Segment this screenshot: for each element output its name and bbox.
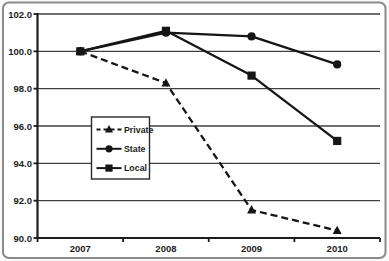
y-tick-label: 98.0 bbox=[14, 83, 33, 94]
x-tick-label: 2008 bbox=[155, 243, 176, 254]
marker-local-2010 bbox=[333, 137, 341, 145]
x-tick-label: 2007 bbox=[70, 243, 91, 254]
legend-label-state: State bbox=[124, 144, 146, 154]
y-tick-label: 96.0 bbox=[14, 121, 33, 132]
y-tick-label: 102.0 bbox=[8, 9, 32, 20]
line-chart: 90.092.094.096.098.0100.0102.02007200820… bbox=[0, 0, 389, 261]
y-tick-label: 90.0 bbox=[14, 233, 33, 244]
y-tick-label: 94.0 bbox=[14, 158, 33, 169]
marker-local-2009 bbox=[247, 72, 255, 80]
legend-square-icon bbox=[105, 165, 112, 172]
marker-local-2007 bbox=[76, 47, 84, 55]
marker-state-2009 bbox=[247, 32, 255, 40]
chart-frame: 90.092.094.096.098.0100.0102.02007200820… bbox=[0, 0, 389, 261]
marker-local-2008 bbox=[162, 27, 170, 35]
chart-outer-border bbox=[3, 3, 386, 259]
marker-state-2010 bbox=[333, 60, 341, 68]
legend-circle-icon bbox=[105, 145, 112, 152]
y-tick-label: 92.0 bbox=[14, 195, 33, 206]
x-tick-label: 2009 bbox=[241, 243, 262, 254]
y-tick-label: 100.0 bbox=[8, 46, 32, 57]
legend-label-private: Private bbox=[124, 125, 153, 135]
legend-label-local: Local bbox=[124, 163, 147, 173]
x-tick-label: 2010 bbox=[327, 243, 348, 254]
